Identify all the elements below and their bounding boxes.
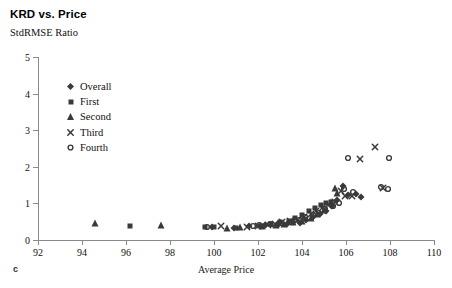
square-icon	[64, 99, 77, 105]
legend-item-label: First	[80, 96, 99, 107]
x-tick-mark	[346, 240, 347, 245]
x-tick-label: 94	[77, 247, 87, 258]
legend-item-label: Third	[80, 127, 103, 138]
x-tick-label: 92	[33, 247, 43, 258]
legend-item-overall[interactable]: Overall	[64, 79, 112, 94]
y-axis-label: StdRMSE Ratio	[10, 27, 78, 38]
x-tick-label: 106	[339, 247, 354, 258]
x-axis-line	[38, 240, 435, 241]
legend-item-fourth[interactable]: Fourth	[64, 140, 112, 155]
circle-icon	[64, 144, 77, 151]
y-tick-mark	[33, 167, 38, 168]
cross-icon	[64, 129, 77, 136]
y-tick-mark	[33, 203, 38, 204]
diamond-icon	[64, 83, 77, 90]
panel-letter: c	[13, 264, 18, 274]
x-tick-label: 102	[251, 247, 266, 258]
y-tick-label: 0	[25, 235, 30, 246]
legend: OverallFirstSecondThirdFourth	[64, 79, 112, 155]
x-tick-label: 104	[295, 247, 310, 258]
x-tick-mark	[170, 240, 171, 245]
y-tick-label: 4	[25, 88, 30, 99]
y-axis-line	[38, 57, 39, 241]
chart-figure: KRD vs. Price StdRMSE Ratio 012345 92949…	[0, 0, 452, 288]
y-tick-mark	[33, 94, 38, 95]
x-tick-label: 110	[427, 247, 442, 258]
x-tick-label: 96	[121, 247, 131, 258]
x-tick-mark	[434, 240, 435, 245]
legend-item-label: Second	[80, 111, 111, 122]
y-tick-label: 5	[25, 52, 30, 63]
x-tick-label: 98	[165, 247, 175, 258]
y-tick-mark	[33, 57, 38, 58]
x-tick-mark	[126, 240, 127, 245]
y-tick-label: 1	[25, 198, 30, 209]
x-axis-label: Average Price	[0, 264, 452, 275]
legend-item-second[interactable]: Second	[64, 109, 112, 124]
x-tick-mark	[390, 240, 391, 245]
x-tick-mark	[302, 240, 303, 245]
legend-item-first[interactable]: First	[64, 94, 112, 109]
triangle-icon	[64, 113, 77, 120]
y-tick-label: 2	[25, 161, 30, 172]
x-tick-mark	[258, 240, 259, 245]
x-tick-label: 108	[383, 247, 398, 258]
y-tick-mark	[33, 130, 38, 131]
legend-item-label: Overall	[80, 81, 112, 92]
y-tick-label: 3	[25, 125, 30, 136]
x-tick-mark	[82, 240, 83, 245]
page-title: KRD vs. Price	[10, 8, 87, 20]
legend-item-third[interactable]: Third	[64, 125, 112, 140]
x-tick-mark	[214, 240, 215, 245]
x-tick-mark	[38, 240, 39, 245]
x-tick-label: 100	[207, 247, 222, 258]
legend-item-label: Fourth	[80, 142, 108, 153]
